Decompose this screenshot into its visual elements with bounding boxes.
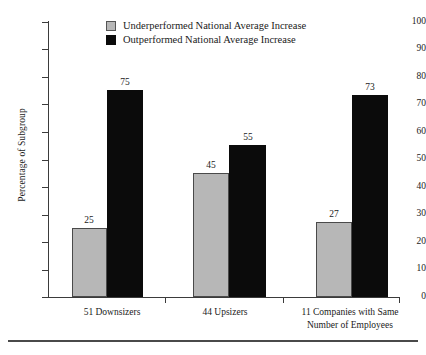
bar-outperformed-upsizers [229, 145, 266, 297]
value-label-outperformed-upsizers: 55 [228, 132, 268, 142]
bar-outperformed-downsizers [107, 90, 143, 297]
value-label-underperformed-same-employees: 27 [314, 209, 354, 219]
x-tick-separator-2 [283, 298, 284, 303]
bottom-divider [8, 340, 418, 342]
x-tick-separator-3 [399, 298, 400, 303]
bar-chart-figure: Underperformed National Average Increase… [0, 0, 426, 355]
y-axis-title: Percentage of Subgroup [17, 60, 27, 250]
plot-area: 25 75 45 55 27 73 [48, 21, 400, 297]
bar-outperformed-same-employees [352, 95, 388, 297]
value-label-outperformed-same-employees: 73 [350, 82, 390, 92]
x-category-label-downsizers: 51 Downsizers [52, 306, 172, 318]
bar-underperformed-same-employees [316, 222, 352, 297]
value-label-underperformed-upsizers: 45 [191, 160, 231, 170]
value-label-underperformed-downsizers: 25 [69, 215, 109, 225]
x-category-label-upsizers: 44 Upsizers [170, 306, 280, 318]
bar-underperformed-downsizers [72, 228, 107, 297]
value-label-outperformed-downsizers: 75 [105, 77, 145, 87]
x-tick-separator-1 [165, 298, 166, 303]
bar-underperformed-upsizers [193, 173, 229, 297]
x-axis-line [48, 297, 400, 298]
